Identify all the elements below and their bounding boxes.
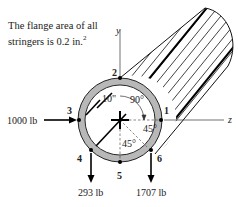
stringer-3-dot bbox=[77, 118, 81, 122]
load-stringer-6-label: 1707 lb bbox=[136, 187, 166, 198]
stringer-1-label: 1 bbox=[164, 105, 169, 116]
angle-45-lower-label: 45° bbox=[122, 138, 136, 149]
load-arrow-stringer-4 bbox=[88, 153, 95, 183]
stringer-6-dot bbox=[149, 148, 153, 152]
z-axis-label: z bbox=[227, 114, 232, 125]
load-stringer-4-label: 293 lb bbox=[78, 187, 103, 198]
angle-45-right-label: 45° bbox=[143, 123, 157, 134]
stringer-1-dot bbox=[159, 118, 163, 122]
load-arrow-stringer-3 bbox=[44, 117, 77, 124]
stringer-6-label: 6 bbox=[157, 153, 162, 164]
stringer-5-dot bbox=[118, 160, 122, 164]
stringer-5-label: 5 bbox=[117, 170, 122, 181]
stringer-2-label: 2 bbox=[112, 67, 117, 78]
stringer-3-label: 3 bbox=[67, 105, 72, 116]
stringer-4-label: 4 bbox=[77, 153, 82, 164]
stringer-2-dot bbox=[118, 76, 122, 80]
radius-label: 10" bbox=[102, 93, 116, 104]
load-arrow-stringer-6 bbox=[148, 153, 155, 183]
y-axis-label: y bbox=[115, 25, 121, 36]
load-stringer-3-label: 1000 lb bbox=[7, 115, 37, 126]
stringer-cylinder-diagram: y z 10" 90° 45° 45° 1 2 3 4 5 6 1000 lb … bbox=[0, 0, 238, 207]
stringer-4-dot bbox=[89, 148, 93, 152]
angle-90-label: 90° bbox=[130, 94, 144, 105]
